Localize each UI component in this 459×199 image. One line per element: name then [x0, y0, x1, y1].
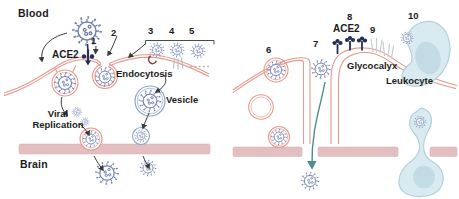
label-endocytosis: Endocytosis: [116, 69, 173, 79]
ace2-receptors-right-icon: [332, 36, 367, 54]
virus-icon-brain-b: [140, 160, 155, 175]
virus-icon-mode4: [170, 43, 184, 57]
region-label-blood: Blood: [18, 8, 49, 20]
ace2-receptor-left-icon: [82, 44, 94, 66]
label-ace2-left: ACE2: [52, 49, 79, 60]
virus-icon-vesicle: [140, 91, 161, 112]
label-ace2-right: ACE2: [333, 23, 360, 34]
figure-viral-neuroinvasion-diagram: Blood Brain ACE2 1 2 3 4 5 Endocytosis V…: [0, 0, 459, 199]
region-label-brain: Brain: [20, 159, 48, 171]
virus-icon-mode5: [191, 44, 205, 58]
label-vesicle: Vesicle: [166, 95, 198, 105]
label-viral-replication-line2: Replication: [26, 119, 90, 130]
step-number-6: 6: [266, 45, 271, 55]
step-number-1: 1: [91, 36, 96, 46]
glycocalyx-icon: [371, 39, 394, 59]
virus-icon-left-vesicle: [55, 73, 75, 93]
label-viral-replication: Viral Replication: [26, 108, 90, 131]
step-number-4: 4: [169, 26, 174, 36]
virus-icon-basement: [272, 130, 287, 145]
diagram-artwork: [0, 0, 459, 199]
virus-icon-paracellular: [312, 60, 330, 78]
step-number-3: 3: [148, 26, 153, 36]
proteoglycan-strands-icon: [174, 58, 183, 70]
step-number-2: 2: [111, 28, 116, 38]
label-leukocyte: Leukocyte: [386, 76, 433, 86]
virus-icon-brain-right: [302, 173, 319, 190]
step-number-8: 8: [347, 12, 352, 22]
step-number-7: 7: [313, 39, 318, 49]
step-number-10: 10: [408, 11, 419, 21]
step-number-9: 9: [370, 25, 375, 35]
basement-membrane-left: [19, 144, 210, 154]
label-glycocalyx: Glycocalyx: [347, 61, 397, 71]
bracket-3-4-5: [146, 41, 215, 45]
virus-icon-blood: [73, 17, 100, 44]
label-viral-replication-line1: Viral: [26, 108, 90, 119]
leukocyte-nucleus: [413, 166, 435, 189]
empty-vesicle: [249, 95, 274, 120]
step-number-5: 5: [189, 26, 194, 36]
